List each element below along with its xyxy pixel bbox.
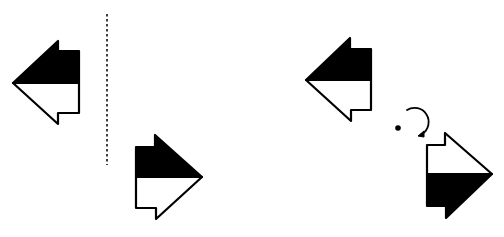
rotation-center-dot [395,125,401,131]
reflection-panel [13,14,202,219]
reflection-original-arrow [13,41,79,124]
diagram-svg [0,0,504,237]
arrow-filled-top-half [306,38,371,80]
arrow-white-bottom-half [13,83,79,124]
rotation-arrow-icon [407,108,429,137]
reflection-mirrored-arrow [136,135,202,219]
rotation-original-arrow [306,38,371,121]
arrow-white-bottom-half [306,80,371,121]
arrow-filled-top-half [13,41,79,83]
rotation-rotated-arrow [427,133,492,218]
transformations-diagram [0,0,504,237]
arrow-white-top-half [427,133,492,174]
arrow-filled-top-half [136,135,202,177]
arrow-filled-bottom-half [427,174,492,218]
rotation-panel [306,38,492,218]
arrow-white-bottom-half [136,177,202,219]
